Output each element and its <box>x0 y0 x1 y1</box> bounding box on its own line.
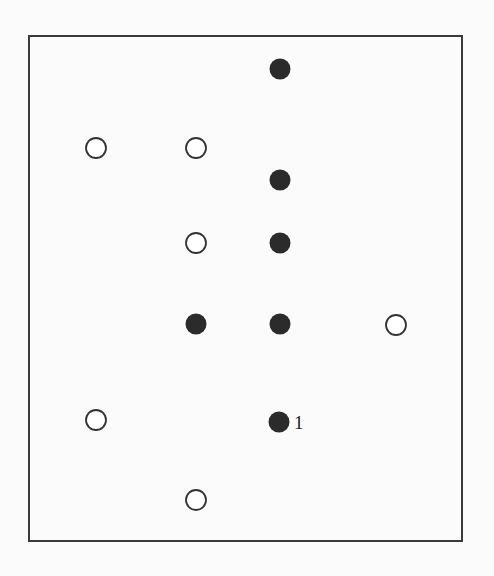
filled-dot <box>270 59 291 80</box>
filled-circle-icon <box>269 412 290 433</box>
filled-circle-icon <box>270 233 291 254</box>
open-circle-icon <box>186 138 206 158</box>
point-label: 1 <box>294 412 304 433</box>
open-dot <box>186 490 206 510</box>
open-circle-icon <box>86 138 106 158</box>
filled-circle-icon <box>270 59 291 80</box>
dot-pattern-diagram: 1 <box>0 0 494 576</box>
open-dot <box>86 410 106 430</box>
filled-circle-icon <box>270 314 291 335</box>
filled-circle-icon <box>270 170 291 191</box>
open-dot <box>186 138 206 158</box>
filled-circle-icon <box>186 314 207 335</box>
filled-dot <box>270 233 291 254</box>
diagram-canvas: 1 <box>0 0 494 576</box>
filled-dot <box>270 170 291 191</box>
open-dot <box>186 233 206 253</box>
open-dot <box>86 138 106 158</box>
diagram-frame <box>29 36 462 541</box>
points-layer: 1 <box>86 59 406 511</box>
open-circle-icon <box>186 233 206 253</box>
filled-dot <box>270 314 291 335</box>
open-dot <box>386 315 406 335</box>
open-circle-icon <box>186 490 206 510</box>
open-circle-icon <box>386 315 406 335</box>
filled-dot: 1 <box>269 412 304 434</box>
open-circle-icon <box>86 410 106 430</box>
filled-dot <box>186 314 207 335</box>
